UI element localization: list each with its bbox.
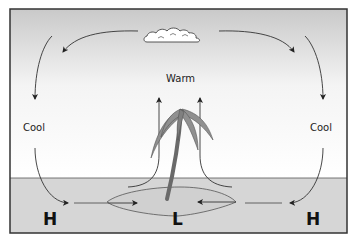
label-high-left: H [43,209,57,229]
label-cool-left: Cool [23,122,45,133]
sea-breeze-diagram: Cool Cool Warm H L H [0,0,353,242]
label-warm: Warm [166,73,195,84]
label-low-center: L [172,209,183,229]
label-cool-right: Cool [310,122,332,133]
label-high-right: H [306,209,320,229]
